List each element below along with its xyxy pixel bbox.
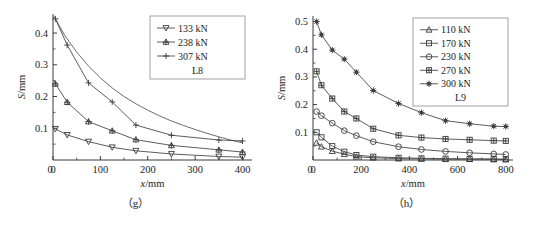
- data-point-square-cross: [354, 116, 359, 121]
- legend-group-label: L8: [192, 65, 203, 76]
- marker-glyph: [397, 102, 399, 104]
- data-point-star: [442, 118, 448, 124]
- data-point-plus: [216, 137, 222, 143]
- data-point-plus: [168, 132, 174, 138]
- marker-glyph: [505, 125, 507, 127]
- data-point-star-triangle: [109, 128, 115, 134]
- series-line: [55, 129, 242, 157]
- legend-label: 110 kN: [441, 24, 470, 35]
- chart-svg-g: 01002003004000.10.20.30.40x/mmS/mm133 kN…: [0, 0, 271, 196]
- x-tick-label: 800: [498, 164, 514, 175]
- plot-area-h: 02004006008000.10.20.30.40.50x/mmS/mm110…: [271, 0, 542, 196]
- y-axis-title-group: S/mm: [276, 76, 287, 101]
- y-axis-title: S/mm: [16, 75, 27, 100]
- legend-label: 238 kN: [178, 37, 208, 48]
- marker-glyph: [331, 49, 333, 51]
- x-tick-label: 200: [353, 164, 369, 175]
- x-tick-label: 400: [235, 164, 251, 175]
- panel-caption-h: （h）: [393, 194, 421, 210]
- legend-label: 270 kN: [441, 65, 471, 76]
- data-point-star-triangle: [216, 147, 222, 153]
- legend-label: 230 kN: [441, 51, 471, 62]
- data-point-plus: [240, 138, 246, 144]
- data-point-star: [491, 123, 497, 129]
- data-point-star: [313, 18, 319, 24]
- x-tick-label: 600: [450, 164, 466, 175]
- data-point-star: [353, 69, 359, 75]
- y-tick-label: 0.4: [35, 28, 49, 39]
- legend-label: 307 kN: [178, 51, 208, 62]
- marker-glyph: [428, 83, 430, 85]
- x-axis-title: x/mm: [140, 178, 165, 189]
- data-point-star: [466, 121, 472, 127]
- y-axis-title-group: S/mm: [16, 75, 27, 100]
- y-tick-label: 0.1: [295, 127, 308, 138]
- data-point-plus: [64, 42, 70, 48]
- marker-glyph: [444, 120, 446, 122]
- series-line: [55, 84, 242, 152]
- y-tick-label: 0.2: [35, 91, 48, 102]
- figure-container: 01002003004000.10.20.30.40x/mmS/mm133 kN…: [0, 0, 543, 230]
- data-point-star: [426, 81, 432, 87]
- data-point-triangle-up: [314, 140, 320, 145]
- x-tick-label: 100: [93, 164, 109, 175]
- data-point-square-cross: [503, 138, 508, 143]
- x-tick-label: 200: [140, 164, 156, 175]
- data-point-square-cross: [371, 126, 376, 131]
- data-point-square-cross: [396, 133, 401, 138]
- chart-panel-g: 01002003004000.10.20.30.40x/mmS/mm133 kN…: [0, 0, 271, 230]
- marker-glyph: [320, 34, 322, 36]
- data-point-star: [418, 109, 424, 115]
- legend: 110 kN170 kN230 kN270 kN300 kNL9: [413, 18, 508, 106]
- marker-glyph: [493, 125, 495, 127]
- legend-label: 170 kN: [441, 38, 471, 49]
- series-230-kn: [314, 109, 509, 158]
- data-point-square-cross: [467, 137, 472, 142]
- y-tick-label: 0.1: [35, 123, 48, 134]
- marker-glyph: [316, 20, 318, 22]
- data-point-star-triangle: [133, 137, 139, 143]
- data-point-square-cross: [419, 135, 424, 140]
- x-tick-label: 400: [402, 164, 418, 175]
- plot-area-g: 01002003004000.10.20.30.40x/mmS/mm133 kN…: [0, 0, 271, 196]
- data-point-star: [318, 32, 324, 38]
- y-axis-title: S/mm: [276, 76, 287, 101]
- data-point-star: [341, 56, 347, 62]
- marker-glyph: [343, 58, 345, 60]
- chart-svg-h: 02004006008000.10.20.30.40.50x/mmS/mm110…: [271, 0, 543, 196]
- data-point-square-cross: [314, 69, 319, 74]
- panel-caption-g: （g）: [122, 194, 150, 210]
- marker-glyph: [420, 112, 422, 114]
- marker-glyph: [314, 140, 320, 145]
- origin-label: 0: [307, 164, 312, 175]
- chart-panel-h: 02004006008000.10.20.30.40.50x/mmS/mm110…: [271, 0, 542, 230]
- marker-glyph: [469, 123, 471, 125]
- y-tick-label: 0.4: [295, 44, 309, 55]
- x-axis-title: x/mm: [400, 178, 425, 189]
- data-point-square-cross: [443, 136, 448, 141]
- y-tick-label: 0.3: [295, 71, 308, 82]
- origin-label: 0: [47, 164, 52, 175]
- data-point-star-triangle: [168, 142, 174, 148]
- legend-label: 300 kN: [441, 78, 471, 89]
- series-238-kn: [52, 81, 245, 156]
- data-point-star: [329, 47, 335, 53]
- y-tick-label: 0.2: [295, 99, 308, 110]
- y-tick-label: 0.3: [35, 59, 48, 70]
- marker-glyph: [355, 71, 357, 73]
- data-point-star-triangle: [64, 99, 70, 105]
- data-point-star: [370, 87, 376, 93]
- x-tick-label: 300: [187, 164, 203, 175]
- series-133-kn: [52, 126, 245, 160]
- data-point-square-cross: [491, 138, 496, 143]
- legend-label: 133 kN: [178, 23, 208, 34]
- data-point-star: [395, 100, 401, 106]
- data-point-star-triangle: [239, 149, 245, 155]
- y-tick-label: 0.5: [295, 16, 308, 27]
- data-point-star: [503, 123, 509, 129]
- legend-group-label: L9: [455, 92, 466, 103]
- legend: 133 kN238 kN307 kNL8: [150, 16, 245, 79]
- marker-glyph: [372, 89, 374, 91]
